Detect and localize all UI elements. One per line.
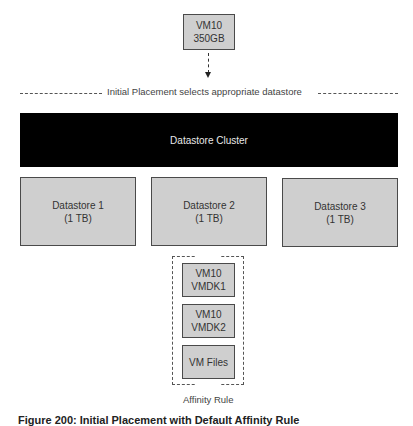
figure-caption: Figure 200: Initial Placement with Defau…: [18, 414, 299, 426]
item-line2: VMDK1: [191, 280, 225, 293]
datastore-size: (1 TB): [326, 213, 354, 226]
datastore-2: Datastore 2 (1 TB): [151, 177, 267, 246]
affinity-border-gap-top: [195, 255, 221, 258]
datastore-name: Datastore 2: [183, 199, 235, 212]
datastore-size: (1 TB): [64, 212, 92, 225]
arrow-head-icon: [205, 72, 211, 78]
vm10-source-box: VM10 350GB: [183, 14, 235, 50]
datastore-1: Datastore 1 (1 TB): [20, 177, 136, 246]
affinity-border-gap-bottom: [195, 383, 221, 386]
placement-dashline-left: [20, 93, 102, 94]
placement-label: Initial Placement selects appropriate da…: [107, 86, 302, 97]
item-line2: VMDK2: [191, 321, 225, 334]
vm10-vmdk2-box: VM10 VMDK2: [182, 304, 235, 338]
vm10-vmdk1-box: VM10 VMDK1: [182, 263, 235, 297]
cluster-label: Datastore Cluster: [170, 135, 248, 146]
vm-files-box: VM Files: [182, 345, 235, 379]
datastore-3: Datastore 3 (1 TB): [282, 178, 398, 247]
item-line1: VM10: [195, 267, 221, 280]
placement-arrow: [208, 53, 209, 73]
datastore-name: Datastore 3: [314, 200, 366, 213]
datastore-size: (1 TB): [195, 212, 223, 225]
vm-size: 350GB: [193, 32, 224, 45]
item-line1: VM10: [195, 308, 221, 321]
affinity-rule-label: Affinity Rule: [183, 394, 234, 405]
vm-name: VM10: [196, 19, 222, 32]
datastore-cluster: Datastore Cluster: [20, 113, 398, 167]
item-line1: VM Files: [189, 356, 228, 369]
placement-dashline-right: [318, 93, 398, 94]
datastore-name: Datastore 1: [52, 199, 104, 212]
